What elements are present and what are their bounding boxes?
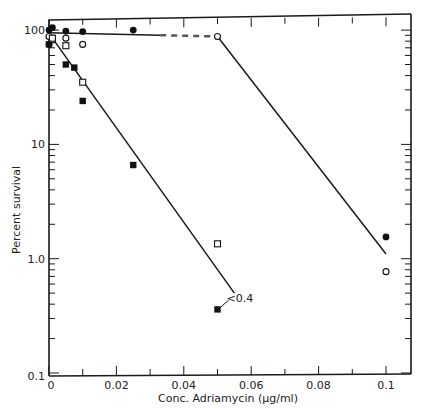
open-square-marker: [80, 79, 86, 85]
open-circle-marker: [215, 33, 221, 39]
filled-square-marker: [63, 61, 69, 67]
y-tick-label: 10: [31, 138, 45, 151]
y-axis-label: Percent survival: [10, 166, 23, 254]
fit-lines: [49, 33, 386, 293]
fit-line: [52, 38, 234, 293]
filled-circle-marker: [62, 28, 69, 35]
x-axis-label: Conc. Adriamycin (μg/ml): [158, 392, 298, 405]
open-square-marker: [63, 43, 69, 49]
y-tick-label: 0.1: [28, 370, 46, 383]
top-border: [49, 14, 411, 20]
filled-square-marker: [214, 306, 220, 312]
filled-square-marker: [130, 162, 136, 168]
y-tick-label: 100: [24, 24, 45, 37]
open-circle-marker: [80, 41, 86, 47]
annotation-label: <0.4: [227, 292, 254, 305]
x-tick-label: 0.1: [377, 379, 395, 392]
filled-circle-marker: [79, 28, 86, 35]
x-tick-label: 0: [48, 379, 55, 392]
fit-line-plateau-dashed: [160, 35, 217, 36]
filled-square-marker: [80, 98, 86, 104]
axes: [49, 14, 411, 376]
x-tick-label: 0.08: [306, 379, 331, 392]
filled-square-marker: [71, 64, 77, 70]
open-circle-marker: [383, 269, 389, 275]
filled-circle-marker: [383, 234, 390, 241]
open-square-marker: [215, 241, 221, 247]
y-tick-label: 1.0: [28, 253, 46, 266]
open-circle-marker: [63, 35, 69, 41]
survival-chart: 00.020.040.060.080.10.11.010100Conc. Adr…: [0, 0, 422, 409]
x-tick-label: 0.04: [172, 379, 197, 392]
x-tick-label: 0.06: [239, 379, 264, 392]
open-square-marker: [49, 35, 55, 41]
filled-circle-marker: [49, 24, 56, 31]
x-tick-label: 0.02: [104, 379, 129, 392]
filled-circle-marker: [130, 27, 137, 34]
filled-square-marker: [46, 41, 52, 47]
fit-line: [218, 36, 387, 254]
axis-labels: 00.020.040.060.080.10.11.010100Conc. Adr…: [10, 24, 395, 405]
x-axis-bottom: [49, 374, 411, 376]
